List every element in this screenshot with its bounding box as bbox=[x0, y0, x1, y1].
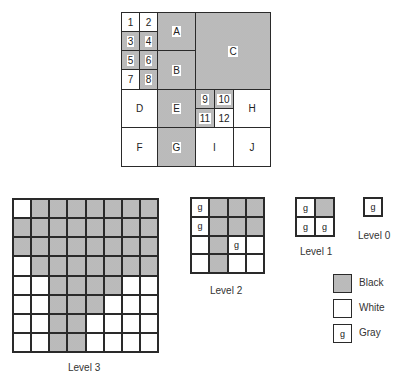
region-H: H bbox=[233, 89, 271, 128]
region-F: F bbox=[121, 127, 158, 167]
grid-cell-black bbox=[209, 198, 227, 217]
grid-cell-white bbox=[104, 295, 122, 314]
grid-cell-black bbox=[13, 218, 31, 237]
grid-cell-white bbox=[104, 333, 122, 352]
grid-cell-gray: g bbox=[191, 217, 209, 236]
grid-cell-gray: g bbox=[191, 198, 209, 217]
grid-cell-black bbox=[104, 256, 122, 275]
quadtree-region-map: 1 2 3 4 5 6 7 8 A B C D E F G 9 10 11 12… bbox=[121, 12, 271, 167]
grid-cell-white bbox=[140, 276, 158, 295]
legend-swatch-black bbox=[333, 274, 352, 293]
grid-cell-white bbox=[13, 276, 31, 295]
region-11: 11 bbox=[195, 108, 215, 128]
region-3: 3 bbox=[121, 31, 140, 51]
region-1: 1 bbox=[121, 12, 140, 32]
grid-cell-black bbox=[67, 333, 85, 352]
region-2: 2 bbox=[139, 12, 158, 32]
grid-cell-black bbox=[31, 199, 49, 218]
grid-cell-white bbox=[191, 254, 209, 273]
grid-cell-white bbox=[13, 314, 31, 333]
level-0-grid: g bbox=[363, 197, 383, 217]
grid-cell-white bbox=[228, 254, 246, 273]
grid-cell-black bbox=[67, 237, 85, 256]
grid-cell-black bbox=[104, 276, 122, 295]
grid-cell-black bbox=[49, 218, 67, 237]
grid-cell-black bbox=[140, 218, 158, 237]
region-E: E bbox=[157, 89, 196, 128]
grid-cell-gray: g bbox=[228, 236, 246, 255]
level-3-grid bbox=[12, 198, 159, 353]
grid-cell-white bbox=[13, 199, 31, 218]
legend-label-gray: Gray bbox=[359, 327, 381, 338]
region-10: 10 bbox=[214, 89, 234, 109]
grid-cell-black bbox=[122, 237, 140, 256]
grid-cell-black bbox=[13, 237, 31, 256]
level-3-caption: Level 3 bbox=[68, 362, 100, 373]
region-A: A bbox=[157, 12, 196, 51]
grid-cell-gray: g bbox=[296, 198, 315, 217]
region-7: 7 bbox=[121, 69, 140, 90]
grid-cell-gray: g bbox=[364, 198, 382, 216]
grid-cell-black bbox=[104, 199, 122, 218]
region-I: I bbox=[195, 127, 234, 167]
grid-cell-black bbox=[209, 236, 227, 255]
region-5: 5 bbox=[121, 50, 140, 70]
region-B: B bbox=[157, 50, 196, 90]
grid-cell-white bbox=[86, 333, 104, 352]
grid-cell-black bbox=[49, 199, 67, 218]
legend: Black White g Gray bbox=[333, 274, 401, 346]
grid-cell-white bbox=[191, 236, 209, 255]
region-8: 8 bbox=[139, 69, 158, 90]
region-G: G bbox=[157, 127, 196, 167]
grid-cell-gray: g bbox=[296, 217, 315, 236]
grid-cell-black bbox=[31, 237, 49, 256]
grid-cell-white bbox=[31, 333, 49, 352]
grid-cell-white bbox=[86, 314, 104, 333]
region-6: 6 bbox=[139, 50, 158, 70]
grid-cell-white bbox=[140, 295, 158, 314]
grid-cell-black bbox=[31, 256, 49, 275]
level-2-grid: ggg bbox=[190, 197, 265, 274]
grid-cell-black bbox=[86, 199, 104, 218]
grid-cell-black bbox=[86, 218, 104, 237]
grid-cell-black bbox=[228, 217, 246, 236]
grid-cell-white bbox=[13, 256, 31, 275]
legend-swatch-white bbox=[333, 299, 352, 318]
grid-cell-black bbox=[67, 199, 85, 218]
legend-label-black: Black bbox=[359, 277, 383, 288]
grid-cell-black bbox=[140, 199, 158, 218]
grid-cell-black bbox=[86, 256, 104, 275]
legend-label-white: White bbox=[359, 302, 385, 313]
grid-cell-black bbox=[104, 237, 122, 256]
grid-cell-black bbox=[67, 218, 85, 237]
level-2-caption: Level 2 bbox=[210, 285, 242, 296]
region-J: J bbox=[233, 127, 271, 167]
level-1-grid: ggg bbox=[295, 197, 335, 237]
grid-cell-white bbox=[31, 295, 49, 314]
grid-cell-black bbox=[86, 276, 104, 295]
grid-cell-black bbox=[86, 237, 104, 256]
grid-cell-black bbox=[49, 295, 67, 314]
grid-cell-black bbox=[67, 276, 85, 295]
grid-cell-black bbox=[67, 314, 85, 333]
grid-cell-white bbox=[122, 333, 140, 352]
grid-cell-white bbox=[122, 276, 140, 295]
grid-cell-black bbox=[49, 314, 67, 333]
grid-cell-gray: g bbox=[315, 217, 334, 236]
grid-cell-black bbox=[86, 295, 104, 314]
level-0-caption: Level 0 bbox=[358, 230, 390, 241]
region-D: D bbox=[121, 89, 158, 128]
grid-cell-white bbox=[140, 333, 158, 352]
grid-cell-white bbox=[122, 314, 140, 333]
grid-cell-black bbox=[49, 333, 67, 352]
grid-cell-black bbox=[122, 218, 140, 237]
grid-cell-black bbox=[140, 237, 158, 256]
grid-cell-black bbox=[209, 254, 227, 273]
grid-cell-white bbox=[13, 295, 31, 314]
grid-cell-black bbox=[209, 217, 227, 236]
grid-cell-black bbox=[228, 198, 246, 217]
legend-swatch-gray: g bbox=[333, 324, 352, 343]
grid-cell-white bbox=[104, 314, 122, 333]
grid-cell-white bbox=[31, 276, 49, 295]
grid-cell-black bbox=[122, 199, 140, 218]
